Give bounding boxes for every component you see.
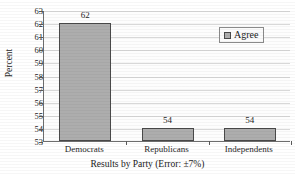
y-axis-tick-mark xyxy=(39,37,43,38)
y-axis-tick-mark xyxy=(39,116,43,117)
y-axis-tick-mark xyxy=(39,24,43,25)
y-axis-tick-mark xyxy=(39,142,43,143)
bar-slot: 62 xyxy=(59,11,111,141)
y-axis-tick-mark xyxy=(39,11,43,12)
y-axis-tick-mark xyxy=(39,77,43,78)
y-axis-tick-mark xyxy=(39,50,43,51)
bar-slot: 54 xyxy=(142,11,194,141)
legend-swatch-icon xyxy=(224,32,231,39)
x-axis-title: Results by Party (Error: ±7%) xyxy=(0,159,295,169)
x-axis-category-label: Independents xyxy=(204,145,294,154)
bar-chart-figure: Percent 625454 6362616059585756555453 De… xyxy=(0,0,295,174)
bar xyxy=(59,23,111,141)
y-axis-tick-mark xyxy=(39,63,43,64)
y-axis-tick-mark xyxy=(39,129,43,130)
y-axis-title: Percent xyxy=(4,30,14,96)
legend-label: Agree xyxy=(234,30,258,40)
x-axis-category-label: Republicans xyxy=(122,145,212,154)
y-axis-tick-mark xyxy=(39,90,43,91)
bar-value-label: 54 xyxy=(245,116,254,125)
y-axis-tick-mark xyxy=(39,103,43,104)
bar xyxy=(224,128,276,141)
chart-legend: Agree xyxy=(219,27,264,43)
bar-value-label: 54 xyxy=(163,116,172,125)
bar-value-label: 62 xyxy=(81,11,90,20)
chart-title-cropped xyxy=(46,0,246,2)
x-axis-category-label: Democrats xyxy=(39,145,129,154)
bar xyxy=(142,128,194,141)
